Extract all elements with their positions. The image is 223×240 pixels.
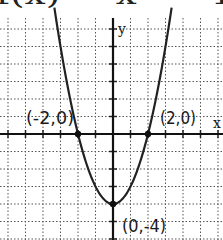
x-axis-label: x — [213, 115, 221, 131]
label-left-intercept: (-2,0) — [26, 108, 74, 128]
title-fragment: f(x) = x² − 4 — [0, 0, 223, 10]
point-left-intercept — [75, 131, 81, 137]
point-vertex — [110, 201, 116, 207]
label-right-intercept: (2,0) — [160, 108, 196, 128]
y-axis-label: y — [117, 21, 126, 37]
point-right-intercept — [145, 131, 151, 137]
label-vertex: (0,-4) — [122, 216, 166, 236]
parabola-graph: y x (-2,0) (2,0) (0,-4) f(x) = x² − 4 — [0, 0, 223, 240]
